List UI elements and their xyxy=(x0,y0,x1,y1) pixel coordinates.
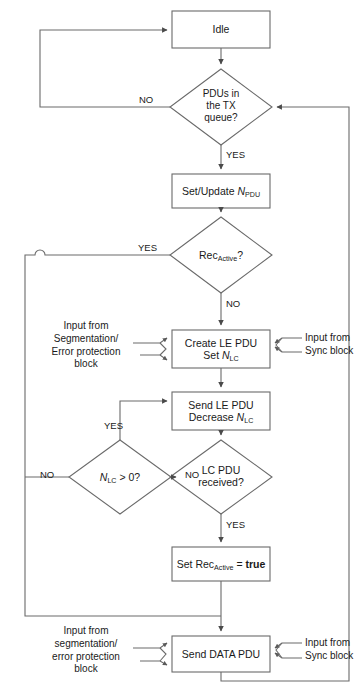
node-send-le-pdu xyxy=(172,392,270,430)
connector-seg-lower-b xyxy=(140,661,167,665)
seg-upper-line2: Segmentation/ xyxy=(30,333,142,346)
edge-senddata-loop-to-pdus xyxy=(221,107,349,681)
annotation-input-sync-lower: Input from Sync block xyxy=(305,637,364,663)
edge-rec-active-yes-loop xyxy=(25,250,221,616)
sync-upper-line1: Input from xyxy=(305,332,364,345)
seg-lower-line4: block xyxy=(30,663,142,676)
edge-label-nlc-no: NO xyxy=(40,470,54,480)
edge-label-lc-no: NO xyxy=(185,470,199,480)
seg-upper-line4: block xyxy=(30,358,142,371)
connector-seg-lower-brace xyxy=(160,648,166,661)
edge-nlc-yes-to-send-le xyxy=(120,401,167,440)
sync-lower-line2: Sync block xyxy=(305,650,364,663)
edge-label-lc-yes: YES xyxy=(226,520,245,530)
edge-label-rec-active-no: NO xyxy=(226,299,240,309)
connector-seg-upper-brace xyxy=(160,343,166,355)
node-pdus-in-tx-queue xyxy=(170,69,272,145)
node-set-rec-active-true xyxy=(172,547,270,581)
annotation-input-sync-upper: Input from Sync block xyxy=(305,332,364,358)
annotation-input-segmentation-lower: Input from segmentation/ error protectio… xyxy=(30,625,142,676)
seg-lower-line1: Input from xyxy=(30,625,142,638)
node-nlc-gt-zero xyxy=(69,440,171,514)
sync-lower-line1: Input from xyxy=(305,637,364,650)
edge-label-nlc-yes: YES xyxy=(104,421,123,431)
edge-label-pdus-yes: YES xyxy=(226,150,245,160)
flowchart-canvas: Idle PDUs in the TX queue? Set/Update NP… xyxy=(0,0,364,685)
sync-upper-line2: Sync block xyxy=(305,345,364,358)
seg-lower-line3: error protection xyxy=(30,651,142,664)
node-create-le-pdu xyxy=(172,330,270,368)
node-idle xyxy=(172,11,270,48)
seg-upper-line3: Error protection xyxy=(30,346,142,359)
annotation-input-segmentation-upper: Input from Segmentation/ Error protectio… xyxy=(30,320,142,371)
edge-label-pdus-no: NO xyxy=(139,95,153,105)
seg-upper-line1: Input from xyxy=(30,320,142,333)
node-set-update-npdu xyxy=(172,174,270,208)
node-send-data-pdu xyxy=(172,636,270,672)
seg-lower-line2: segmentation/ xyxy=(30,638,142,651)
connector-seg-upper-b xyxy=(140,355,167,360)
node-rec-active-check xyxy=(170,217,272,293)
edge-label-rec-active-yes: YES xyxy=(138,243,157,253)
